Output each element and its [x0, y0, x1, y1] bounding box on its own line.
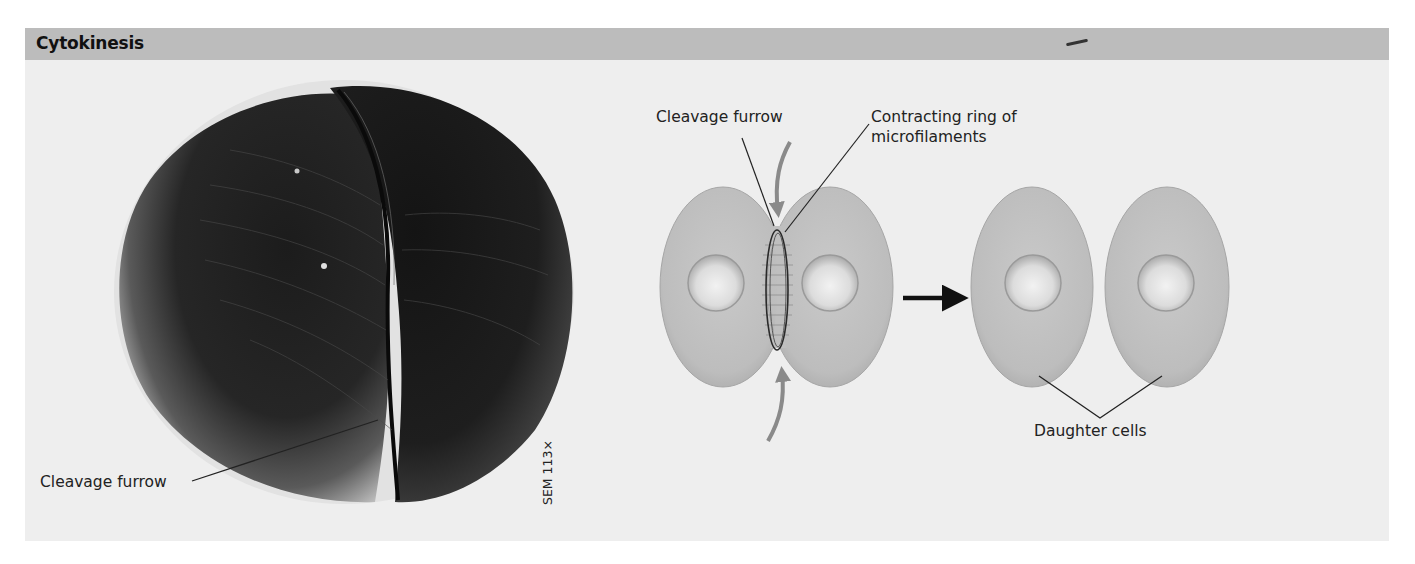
daughter-cells	[971, 187, 1229, 418]
furrow-arrow-down-icon	[777, 142, 790, 212]
sem-magnification-label: SEM 113×	[540, 440, 555, 505]
sem-micrograph	[114, 80, 574, 504]
debris-speck	[321, 263, 327, 269]
contracting-ring-label-line1: Contracting ring of	[871, 108, 1017, 127]
sem-cleavage-furrow-label: Cleavage furrow	[40, 473, 167, 492]
dividing-cell-diagram	[660, 124, 893, 441]
daughter-cells-label: Daughter cells	[1034, 422, 1147, 441]
daughter-cells-leader-line	[1039, 376, 1162, 418]
nucleus-icon	[1138, 255, 1194, 311]
contracting-ring-label-line2: microfilaments	[871, 128, 987, 147]
diagram-cleavage-furrow-label: Cleavage furrow	[656, 108, 783, 127]
nucleus-icon	[688, 255, 744, 311]
debris-speck	[295, 169, 300, 174]
nucleus-icon	[1005, 255, 1061, 311]
nucleus-icon	[802, 255, 858, 311]
furrow-arrow-up-icon	[768, 372, 783, 441]
figure-artwork	[0, 0, 1415, 564]
